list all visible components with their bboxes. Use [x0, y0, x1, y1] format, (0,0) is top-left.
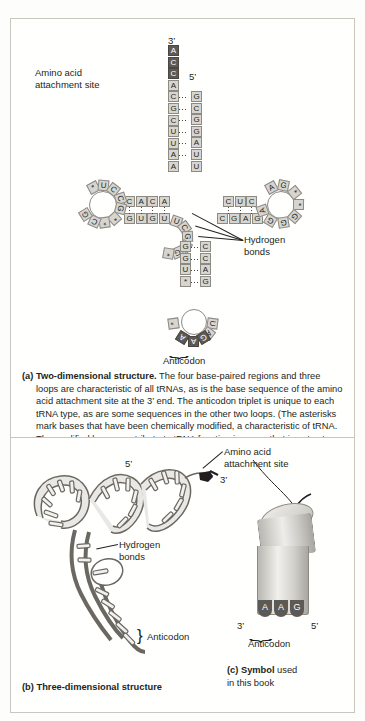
acceptor-3-7: U: [168, 126, 179, 137]
t-stem-hb-0: [228, 207, 229, 215]
acceptor-3-3: A: [168, 80, 179, 91]
ac-stem-hb-1: [191, 259, 200, 260]
hydrogen-bonds-label-b: Hydrogen bonds: [119, 539, 160, 562]
acceptor-hb-0: [179, 97, 188, 98]
symbol-anticodon-base-0: A: [258, 600, 272, 617]
prime-3-wedge-c: [197, 469, 219, 487]
panel-c-caption: (c) Symbol used in this book: [227, 664, 357, 689]
d-stem-top-2: C: [147, 196, 158, 207]
acceptor-5-6: U: [191, 161, 202, 172]
acceptor-5-2: G: [191, 114, 202, 125]
d-stem-hb-2: [152, 207, 153, 215]
acceptor-3-5: G: [168, 103, 179, 114]
panel-bc-container: 5’ Hydrogen bonds } Anticodon (b) Three-…: [10, 437, 355, 713]
ac-stem-right-3: G: [200, 276, 211, 287]
ac-stem-hb-3: [191, 282, 200, 283]
d-stem-top-1: A: [136, 196, 147, 207]
t-stem-top-1: U: [235, 196, 246, 207]
d-stem-hb-3: [164, 207, 165, 215]
anticodon-label-a: Anticodon: [163, 355, 205, 367]
acceptor-hb-4: [179, 143, 188, 144]
ac-stem-right-2: A: [200, 264, 211, 275]
ac-stem-hb-2: [191, 270, 200, 271]
ac-stem-right-1: C: [200, 253, 211, 264]
prime-3-label-c-bottom: 3’: [237, 620, 244, 631]
acceptor-3-6: C: [168, 115, 179, 126]
acceptor-3-1: C: [168, 57, 179, 68]
acceptor-hb-5: [179, 155, 188, 156]
hydrogen-bonds-label-a: Hydrogen bonds: [244, 234, 285, 257]
acceptor-5-4: A: [191, 137, 202, 148]
t-stem-bot-0: C: [217, 213, 228, 224]
d-stem-hb-0: [129, 207, 130, 215]
acceptor-hb-3: [179, 132, 188, 133]
t-stem-bot-1: G: [229, 213, 240, 224]
t-stem-hb-2: [251, 207, 252, 215]
prime-5-label-a: 5’: [189, 71, 196, 82]
acceptor-3-8: U: [168, 138, 179, 149]
anticodon-label-c: Anticodon: [248, 638, 290, 650]
acceptor-3-2: C: [168, 68, 179, 79]
acceptor-3-10: A: [168, 161, 179, 172]
symbol-anticodon-base-2: G: [290, 600, 304, 617]
acceptor-5-0: G: [191, 91, 202, 102]
trna-three-dimensional-ribbon: [15, 444, 215, 659]
acceptor-5-5: U: [191, 149, 202, 160]
symbol-anticodon-base-1: A: [274, 600, 288, 617]
t-stem-bot-2: A: [240, 213, 251, 224]
acceptor-hb-2: [179, 120, 188, 121]
acceptor-hb-1: [179, 109, 188, 110]
ac-stem-left-3: *: [180, 276, 191, 287]
panel-b-caption: (b) Three-dimensional structure: [22, 681, 202, 694]
acceptor-3-9: A: [168, 149, 179, 160]
prime-5-label-c-bottom: 5’: [311, 620, 318, 631]
prime-5-label-b: 5’: [125, 458, 132, 469]
d-stem-top-3: A: [159, 196, 170, 207]
panel-a-two-dimensional-structure: Amino acid attachment site 3’ 5’ ACCACGC…: [10, 18, 355, 437]
t-loop-5: G: [277, 216, 290, 229]
t-stem-hb-1: [240, 207, 241, 215]
acceptor-5-1: C: [191, 103, 202, 114]
t-stem-top-0: C: [223, 196, 234, 207]
anticodon-label-b: Anticodon: [147, 631, 189, 643]
ac-stem-hb-0: [191, 247, 200, 248]
t-stem-top-2: C: [246, 196, 257, 207]
ac-stem-right-0: C: [200, 241, 211, 252]
variable-loop-5: *: [162, 247, 175, 260]
panel-a-caption-bold: (a) Two-dimensional structure.: [22, 371, 157, 381]
panel-c-caption-bold: (c) Symbol: [227, 665, 275, 675]
ac-stem-left-2: U: [180, 264, 191, 275]
anticodon-brace-b: }: [137, 626, 143, 646]
ac-stem-left-0: G: [180, 241, 191, 252]
t-loop-3: *: [293, 199, 304, 210]
ac-loop-left-0: *: [167, 318, 179, 330]
acceptor-5-3: G: [191, 126, 202, 137]
d-stem-hb-1: [141, 207, 142, 215]
figure-page: Amino acid attachment site 3’ 5’ ACCACGC…: [0, 0, 365, 721]
ac-stem-left-1: G: [180, 253, 191, 264]
acceptor-3-0: A: [168, 45, 179, 56]
amino-acid-attachment-label-a: Amino acid attachment site: [35, 67, 99, 90]
acceptor-3-4: C: [168, 91, 179, 102]
prime-3-label-c: 3’: [220, 474, 227, 485]
panel-b-caption-bold: (b) Three-dimensional structure: [22, 682, 162, 692]
